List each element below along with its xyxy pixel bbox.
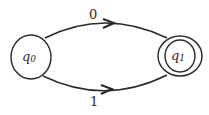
automaton-diagram: 0 1 q0 q1: [0, 0, 209, 115]
transition-edge-0: [45, 23, 167, 38]
transition-edge-1: [43, 75, 167, 91]
arrowhead-icon: [101, 85, 112, 94]
transition-label-1: 1: [90, 94, 98, 109]
transition-label-0: 0: [89, 7, 97, 22]
